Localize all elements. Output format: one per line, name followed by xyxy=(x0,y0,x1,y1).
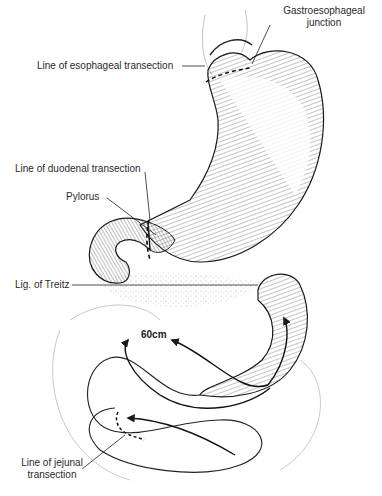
label-lig-treitz: Lig. of Treitz xyxy=(15,279,69,291)
measurement-label: 60cm xyxy=(141,329,167,340)
label-esophageal-transection: Line of esophageal transection xyxy=(37,60,173,72)
label-jejunal-line1: Line of jejunal xyxy=(16,457,88,469)
jejunal-transection-line xyxy=(116,412,144,440)
label-pylorus: Pylorus xyxy=(66,191,99,203)
label-gastroesophageal-junction: Gastroesophageal junction xyxy=(272,5,376,29)
anatomy-illustration: Gastroesophageal junction Line of esopha… xyxy=(0,0,382,496)
label-jejunal-line2: transection xyxy=(16,469,88,481)
stomach xyxy=(140,51,324,262)
label-duodenal-transection: Line of duodenal transection xyxy=(15,163,141,175)
label-ge-line2: junction xyxy=(272,17,376,29)
label-jejunal-transection: Line of jejunal transection xyxy=(16,457,88,481)
label-ge-line1: Gastroesophageal xyxy=(272,5,376,17)
pancreas-stipple xyxy=(100,272,260,307)
measurement-arrow-bottom xyxy=(128,418,235,455)
